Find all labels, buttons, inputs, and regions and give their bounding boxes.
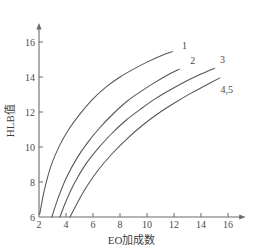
x-axis-arrow-icon	[239, 214, 246, 219]
x-tick-label: 4	[64, 219, 69, 230]
x-tick-label: 10	[142, 219, 152, 230]
hlb-eo-line-chart: 246810121416 6810121416 1234,5 EO加成数 HLB…	[0, 0, 268, 251]
y-tick-label: 16	[25, 37, 35, 48]
y-tick-label: 6	[30, 212, 35, 223]
x-tick-label: 14	[196, 219, 206, 230]
x-axis-title: EO加成数	[108, 234, 156, 246]
y-axis-title: HLB值	[4, 104, 16, 137]
y-tick-label: 10	[25, 142, 35, 153]
axes-group	[36, 23, 245, 220]
curve-label-3: 3	[220, 54, 225, 65]
y-axis-ticks: 6810121416	[25, 37, 43, 223]
curve-label-1: 1	[182, 40, 187, 51]
curve-label-4-5: 4,5	[221, 84, 234, 95]
curve-labels: 1234,5	[182, 40, 233, 95]
y-tick-label: 12	[25, 107, 35, 118]
curve-2	[52, 69, 180, 217]
x-tick-label: 6	[91, 219, 96, 230]
x-tick-label: 16	[223, 219, 233, 230]
data-curves	[40, 52, 220, 217]
curve-1	[40, 52, 173, 215]
curve-label-2: 2	[190, 55, 195, 66]
x-axis-ticks: 246810121416	[37, 213, 234, 230]
curve-3	[60, 68, 215, 217]
x-tick-label: 8	[118, 219, 123, 230]
y-tick-label: 14	[25, 72, 35, 83]
x-tick-label: 2	[37, 219, 42, 230]
chart-figure: 246810121416 6810121416 1234,5 EO加成数 HLB…	[0, 0, 268, 251]
y-axis-arrow-icon	[36, 23, 41, 30]
y-tick-label: 8	[30, 177, 35, 188]
x-tick-label: 12	[169, 219, 179, 230]
